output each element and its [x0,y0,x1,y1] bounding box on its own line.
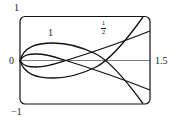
fraction-denominator: 2 [102,29,106,36]
fraction-numerator: 1 [102,20,106,27]
curve-inner-label: 1 2 [101,20,106,36]
y-min-label: −1 [11,107,22,117]
x-max-label: 1.5 [155,56,168,66]
x-min-label: 0 [9,56,14,66]
plot-canvas [0,0,175,118]
y-max-label: 1 [14,3,19,13]
curve-outer-label: 1 [48,28,53,38]
